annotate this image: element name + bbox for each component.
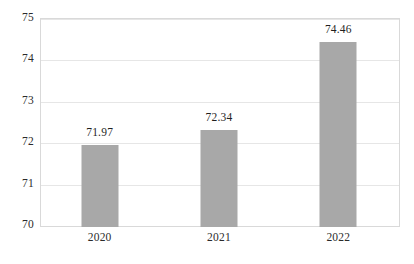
bar[interactable]	[81, 145, 118, 227]
y-axis-tick-label: 74	[0, 54, 34, 66]
y-axis-tick-label: 73	[0, 95, 34, 107]
bar-group: 74.46	[279, 18, 398, 227]
y-axis-tick-label: 70	[0, 219, 34, 231]
x-axis: 202020212022	[40, 231, 400, 249]
y-axis-tick-label: 71	[0, 178, 34, 190]
bar-value-label: 71.97	[86, 127, 113, 139]
bar[interactable]	[320, 42, 357, 227]
bar-value-label: 74.46	[325, 24, 352, 36]
bar-chart: 707172737475 71.9772.3474.46 20202021202…	[0, 0, 414, 264]
bar[interactable]	[200, 130, 237, 227]
bars-layer: 71.9772.3474.46	[40, 18, 400, 227]
y-axis-tick-label: 72	[0, 136, 34, 148]
y-axis: 707172737475	[0, 18, 34, 227]
bar-group: 72.34	[159, 18, 278, 227]
x-axis-tick-label: 2020	[88, 231, 112, 244]
bar-group: 71.97	[40, 18, 159, 227]
x-axis-tick-label: 2022	[326, 231, 350, 244]
bar-value-label: 72.34	[206, 112, 233, 124]
y-axis-tick-label: 75	[0, 12, 34, 24]
x-axis-tick-label: 2021	[207, 231, 231, 244]
